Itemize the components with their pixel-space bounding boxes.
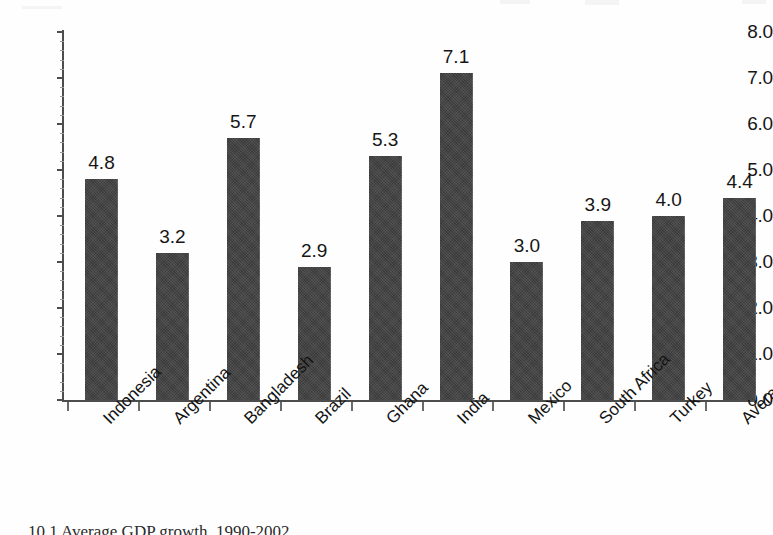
bar <box>723 198 756 400</box>
y-axis-tick-label: 6.0 <box>715 114 773 133</box>
y-axis-tick-mark <box>57 77 64 79</box>
x-axis-category-label: Ghana <box>383 415 395 427</box>
y-axis-minor-tick <box>60 60 64 61</box>
y-axis-minor-tick <box>60 391 64 392</box>
x-axis-tick-mark <box>67 402 69 411</box>
x-axis-tick-mark <box>563 402 565 411</box>
bar <box>298 267 331 400</box>
bar-value-label: 5.3 <box>355 130 415 149</box>
x-axis-tick-mark <box>138 402 140 411</box>
y-axis-tick-mark <box>57 353 64 355</box>
x-axis-tick-mark <box>280 402 282 411</box>
y-axis-minor-tick <box>60 133 64 134</box>
y-axis-minor-tick <box>60 198 64 199</box>
bar <box>369 156 402 400</box>
bar-value-label: 2.9 <box>284 241 344 260</box>
y-axis-tick-label: 7.0 <box>715 68 773 87</box>
scan-artifact <box>742 0 766 4</box>
bar-value-label: 5.7 <box>213 112 273 131</box>
scan-artifact <box>500 0 530 4</box>
x-axis-category-label: Bangladesh <box>241 415 253 427</box>
y-axis-minor-tick <box>60 244 64 245</box>
y-axis-tick-mark <box>57 307 64 309</box>
bar-value-label: 4.4 <box>710 172 770 191</box>
y-axis-tick-mark <box>57 123 64 125</box>
y-axis-minor-tick <box>60 363 64 364</box>
x-axis-category-label: India <box>454 415 466 427</box>
y-axis-minor-tick <box>60 87 64 88</box>
y-axis-minor-tick <box>60 299 64 300</box>
bar <box>227 138 260 400</box>
x-axis-category-label: Turkey <box>667 415 679 427</box>
x-axis-category-label: Average <box>738 415 750 427</box>
y-axis-minor-tick <box>60 382 64 383</box>
x-axis-category-label: South Africa <box>596 415 608 427</box>
y-axis-minor-tick <box>60 41 64 42</box>
y-axis-minor-tick <box>60 225 64 226</box>
bar-value-label: 7.1 <box>426 47 486 66</box>
y-axis-minor-tick <box>60 326 64 327</box>
bar-value-label: 4.0 <box>639 190 699 209</box>
y-axis-tick-mark <box>57 399 64 401</box>
bar-value-label: 3.9 <box>568 195 628 214</box>
y-axis-minor-tick <box>60 188 64 189</box>
figure-canvas: 8.07.06.05.04.03.02.01.00.0 4.83.25.72.9… <box>0 0 773 535</box>
y-axis-tick-label: 8.0 <box>715 22 773 41</box>
y-axis-minor-tick <box>60 96 64 97</box>
y-axis-minor-tick <box>60 161 64 162</box>
y-axis-minor-tick <box>60 142 64 143</box>
x-axis-category-label: Mexico <box>525 415 537 427</box>
y-axis-minor-tick <box>60 69 64 70</box>
y-axis-minor-tick <box>60 336 64 337</box>
y-axis-minor-tick <box>60 106 64 107</box>
y-axis-minor-tick <box>60 179 64 180</box>
x-axis-tick-mark <box>209 402 211 411</box>
y-axis-minor-tick <box>60 280 64 281</box>
y-axis-minor-tick <box>60 317 64 318</box>
y-axis-minor-tick <box>60 234 64 235</box>
x-axis-tick-mark <box>634 402 636 411</box>
y-axis-tick-mark <box>57 261 64 263</box>
y-axis-minor-tick <box>60 253 64 254</box>
bar <box>440 73 473 400</box>
y-axis-minor-tick <box>60 290 64 291</box>
y-axis-tick-mark <box>57 31 64 33</box>
x-axis-tick-mark <box>705 402 707 411</box>
scan-artifact <box>585 0 619 5</box>
y-axis-minor-tick <box>60 372 64 373</box>
x-axis-tick-mark <box>351 402 353 411</box>
y-axis-minor-tick <box>60 271 64 272</box>
scan-artifact <box>22 6 62 9</box>
x-axis-tick-mark <box>422 402 424 411</box>
y-axis-tick-mark <box>57 215 64 217</box>
bar-value-label: 3.2 <box>142 227 202 246</box>
y-axis-tick-mark <box>57 169 64 171</box>
x-axis-category-label: Brazil <box>312 415 324 427</box>
bar <box>581 221 614 400</box>
y-axis-minor-tick <box>60 50 64 51</box>
y-axis-minor-tick <box>60 152 64 153</box>
y-axis-minor-tick <box>60 345 64 346</box>
bar <box>85 179 118 400</box>
bar-value-label: 3.0 <box>497 236 557 255</box>
y-axis-minor-tick <box>60 115 64 116</box>
y-axis-minor-tick <box>60 207 64 208</box>
x-axis-category-label: Argentina <box>170 415 182 427</box>
bar <box>510 262 543 400</box>
x-axis-tick-mark <box>492 402 494 411</box>
figure-caption: 10.1 Average GDP growth, 1990-2002 <box>28 523 448 535</box>
bar-value-label: 4.8 <box>72 153 132 172</box>
x-axis-category-label: Indonesia <box>100 415 112 427</box>
